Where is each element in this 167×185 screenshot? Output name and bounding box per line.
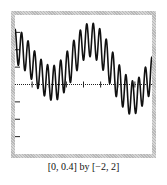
graph-window-frame [11, 11, 156, 158]
window-range-caption: [0, 0.4] by [−2, 2] [0, 161, 167, 172]
plot-area [15, 15, 152, 154]
function-curve [15, 23, 152, 114]
line-chart [15, 15, 152, 154]
